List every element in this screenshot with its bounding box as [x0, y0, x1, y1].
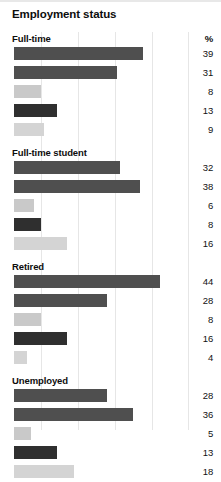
bar-row: 8 — [0, 216, 221, 235]
bar — [14, 446, 57, 459]
group-label: Full-time% — [0, 32, 221, 45]
bar — [14, 47, 143, 60]
bar-value-label: 5 — [200, 428, 213, 439]
bar-row: 31 — [0, 64, 221, 83]
bar — [14, 180, 140, 193]
bar — [14, 389, 107, 402]
bar-value-label: 28 — [200, 295, 213, 306]
bar-value-label: 4 — [200, 352, 213, 363]
bar-value-label: 38 — [200, 181, 213, 192]
bar-value-label: 13 — [200, 105, 213, 116]
bar-value-label: 18 — [200, 466, 213, 477]
bar-row: 13 — [0, 102, 221, 121]
bar — [14, 294, 107, 307]
bar — [14, 199, 34, 212]
percent-header: % — [205, 32, 213, 45]
bar-value-label: 44 — [200, 276, 213, 287]
bar-row: 28 — [0, 292, 221, 311]
chart-title: Employment status — [12, 8, 116, 20]
bar — [14, 351, 27, 364]
bar-value-label: 6 — [200, 200, 213, 211]
bar — [14, 104, 57, 117]
bar-row: 4 — [0, 349, 221, 368]
bar-row: 8 — [0, 83, 221, 102]
bar — [14, 85, 41, 98]
bar-row: 38 — [0, 178, 221, 197]
group-label: Full-time student — [0, 146, 221, 159]
bar-value-label: 13 — [200, 447, 213, 458]
bar-value-label: 32 — [200, 162, 213, 173]
bar-row: 8 — [0, 311, 221, 330]
bar-group: Retired44288164 — [0, 260, 221, 368]
bar — [14, 332, 67, 345]
bar — [14, 465, 74, 478]
bar-row: 39 — [0, 45, 221, 64]
bar-row: 16 — [0, 330, 221, 349]
bar-value-label: 16 — [200, 333, 213, 344]
bar — [14, 123, 44, 136]
bar-value-label: 36 — [200, 409, 213, 420]
bar-value-label: 31 — [200, 67, 213, 78]
bar-row: 13 — [0, 444, 221, 463]
bar — [14, 161, 120, 174]
bar-value-label: 8 — [200, 314, 213, 325]
bar-group: Full-time%39318139 — [0, 32, 221, 140]
bar-row: 36 — [0, 406, 221, 425]
bar-row: 18 — [0, 463, 221, 482]
bar-groups: Full-time%39318139Full-time student32386… — [0, 32, 221, 482]
bar-row: 32 — [0, 159, 221, 178]
group-label: Retired — [0, 260, 221, 273]
bar-group: Unemployed283651318 — [0, 374, 221, 482]
bar — [14, 237, 67, 250]
bar-value-label: 39 — [200, 48, 213, 59]
bar-row: 28 — [0, 387, 221, 406]
bar-value-label: 9 — [200, 124, 213, 135]
bar — [14, 427, 31, 440]
bar-group: Full-time student32386816 — [0, 146, 221, 254]
bar-value-label: 16 — [200, 238, 213, 249]
bar — [14, 313, 41, 326]
bar-value-label: 28 — [200, 390, 213, 401]
group-label: Unemployed — [0, 374, 221, 387]
bar-row: 6 — [0, 197, 221, 216]
bar — [14, 275, 160, 288]
bar-value-label: 8 — [200, 219, 213, 230]
bar-row: 16 — [0, 235, 221, 254]
bar-row: 44 — [0, 273, 221, 292]
bar-row: 5 — [0, 425, 221, 444]
bar — [14, 66, 117, 79]
bar — [14, 408, 133, 421]
bar-row: 9 — [0, 121, 221, 140]
bar — [14, 218, 41, 231]
bar-value-label: 8 — [200, 86, 213, 97]
